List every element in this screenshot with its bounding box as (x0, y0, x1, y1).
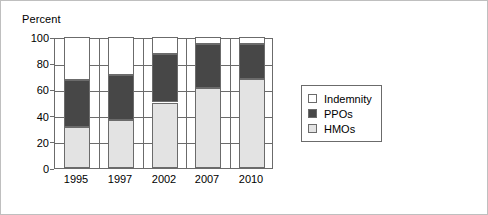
y-axis-tick-label: 20 (37, 137, 49, 149)
bar-1997 (108, 37, 134, 168)
bar-1995 (64, 37, 90, 168)
y-axis-tick-label: 100 (31, 32, 49, 44)
legend-item-hmos: HMOs (308, 121, 372, 136)
y-axis-tick-label: 80 (37, 58, 49, 70)
x-axis-tick-label: 1997 (108, 173, 132, 185)
plot-inner (55, 39, 272, 168)
y-axis-tick-label: 40 (37, 111, 49, 123)
x-axis-tick-label: 1995 (64, 173, 88, 185)
bar-segment-ppos-2010 (239, 44, 265, 79)
chart-figure: Percent 100806040200 1995199720022007201… (0, 0, 488, 215)
bar-segment-indemnity-2007 (195, 37, 221, 44)
y-axis-tick-labels: 100806040200 (18, 38, 49, 169)
bar-segment-ppos-2002 (152, 54, 178, 102)
gridline-vertical (143, 39, 144, 168)
bar-segment-indemnity-1995 (64, 37, 90, 80)
legend-label: HMOs (324, 123, 355, 135)
legend-label: Indemnity (324, 93, 372, 105)
legend-label: PPOs (324, 108, 353, 120)
x-axis-tick-label: 2007 (195, 173, 219, 185)
bar-2007 (195, 37, 221, 168)
legend-swatch-icon (308, 124, 317, 133)
chart-legend: IndemnityPPOsHMOs (301, 85, 382, 142)
y-axis-title: Percent (22, 13, 61, 25)
bar-segment-hmos-2007 (195, 88, 221, 168)
bar-segment-indemnity-1997 (108, 37, 134, 75)
bar-segment-ppos-1997 (108, 75, 134, 120)
legend-swatch-icon (308, 109, 317, 118)
y-axis-tick-label: 0 (43, 163, 49, 175)
x-axis-tick-labels: 19951997200220072010 (54, 173, 273, 189)
bar-segment-indemnity-2010 (239, 37, 265, 44)
y-axis-tick-label: 60 (37, 84, 49, 96)
bar-2010 (239, 37, 265, 168)
x-axis-tick-label: 2002 (152, 173, 176, 185)
legend-swatch-icon (308, 94, 317, 103)
plot-area (54, 38, 273, 169)
bar-segment-ppos-1995 (64, 80, 90, 127)
x-axis-tick-label: 2010 (239, 173, 263, 185)
legend-item-indemnity: Indemnity (308, 91, 372, 106)
bar-segment-ppos-2007 (195, 44, 221, 89)
bar-segment-hmos-2002 (152, 103, 178, 169)
legend-item-ppos: PPOs (308, 106, 372, 121)
gridline-vertical (230, 39, 231, 168)
bar-segment-hmos-2010 (239, 79, 265, 168)
bar-segment-indemnity-2002 (152, 37, 178, 54)
bar-2002 (152, 37, 178, 168)
gridline-vertical (99, 39, 100, 168)
gridline-vertical (186, 39, 187, 168)
bar-segment-hmos-1997 (108, 120, 134, 168)
bar-segment-hmos-1995 (64, 127, 90, 168)
